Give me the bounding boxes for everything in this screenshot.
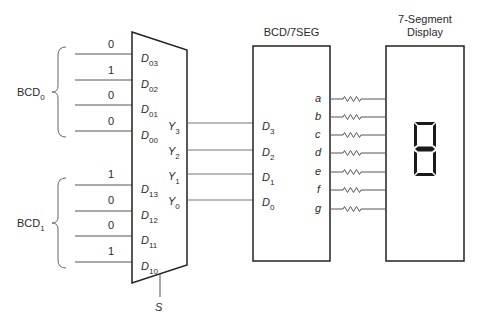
select-label: S <box>155 301 162 313</box>
mux-input-label: D00 <box>141 129 158 147</box>
decoder-title: BCD/7SEG <box>253 26 330 39</box>
mux-output-label: Y1 <box>168 170 180 188</box>
mux-input-label: D13 <box>141 183 158 201</box>
bit-value: 0 <box>108 38 114 50</box>
segment-output-label: a <box>315 92 321 104</box>
mux-input-label: D12 <box>141 209 158 227</box>
circuit-diagram <box>0 0 484 330</box>
bit-value: 0 <box>108 219 114 231</box>
bit-value: 0 <box>108 89 114 101</box>
segment-a <box>415 122 435 125</box>
bcd1-brace <box>52 178 66 268</box>
bcd0-brace <box>52 47 66 137</box>
bit-value: 0 <box>108 115 114 127</box>
segment-output-label: b <box>315 110 321 122</box>
segment-output-label: c <box>315 128 321 140</box>
segment-b <box>433 123 436 147</box>
mux-output-label: Y0 <box>168 195 180 213</box>
segment-output-label: e <box>315 165 321 177</box>
bcd1-label: BCD1 <box>17 217 45 235</box>
decoder-input-label: D2 <box>262 146 274 164</box>
mux-output-label: Y2 <box>168 145 180 163</box>
decoder-input-label: D1 <box>262 171 274 189</box>
bit-value: 0 <box>108 194 114 206</box>
bit-value: 1 <box>108 64 114 76</box>
mux-input-label: D10 <box>141 260 158 278</box>
segment-g <box>415 147 435 152</box>
bcd0-label: BCD0 <box>17 86 45 104</box>
mux-input-label: D01 <box>141 103 158 121</box>
segment-e <box>414 151 417 175</box>
mux-input-label: D03 <box>141 52 158 70</box>
segment-f <box>414 123 417 147</box>
segment-output-label: g <box>315 202 321 214</box>
decoder-input-label: D0 <box>262 196 274 214</box>
seven-segment-display <box>386 46 464 261</box>
decoder-input-label: D3 <box>262 120 274 138</box>
resistor-lines <box>330 97 386 212</box>
mux-input-label: D02 <box>141 78 158 96</box>
segment-c <box>433 151 436 175</box>
mux-output-label: Y3 <box>168 120 180 138</box>
bit-value: 1 <box>108 245 114 257</box>
segment-output-label: f <box>317 183 320 195</box>
seven-segment-digit <box>414 122 436 176</box>
segment-output-label: d <box>315 146 321 158</box>
mux-input-label: D11 <box>141 234 157 252</box>
segment-d <box>415 173 435 176</box>
bit-value: 1 <box>108 168 114 180</box>
display-title: 7-SegmentDisplay <box>386 13 464 39</box>
